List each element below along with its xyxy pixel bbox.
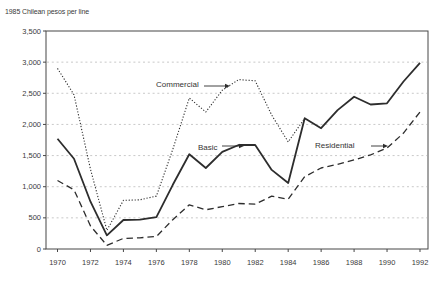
chart-figure: 1985 Chilean pesos per line 05001,0001,5… (0, 0, 445, 283)
x-tick-label: 1976 (148, 258, 165, 267)
y-tick-label: 1,500 (22, 151, 41, 160)
chart-generated-layer: 05001,0001,5002,0002,5003,0003,500197019… (22, 27, 428, 268)
commercial-series-label: Commercial (156, 80, 199, 89)
basic-series-label: Basic (198, 143, 218, 152)
x-tick-label: 1986 (313, 258, 330, 267)
y-tick-label: 3,500 (22, 27, 41, 36)
commercial-line (58, 68, 305, 230)
residential-line (58, 112, 421, 245)
y-tick-label: 2,000 (22, 120, 41, 129)
x-tick-label: 1974 (115, 258, 132, 267)
y-tick-label: 500 (28, 213, 41, 222)
x-tick-label: 1980 (214, 258, 231, 267)
x-tick-label: 1982 (247, 258, 264, 267)
x-tick-label: 1988 (346, 258, 363, 267)
y-tick-label: 2,500 (22, 89, 41, 98)
basic-line (58, 63, 421, 236)
x-tick-label: 1972 (82, 258, 99, 267)
y-tick-label: 0 (37, 245, 41, 254)
x-tick-label: 1970 (49, 258, 66, 267)
commercial-arrowhead (225, 84, 230, 88)
x-tick-label: 1992 (412, 258, 429, 267)
residential-series-label: Residential (315, 141, 355, 150)
x-tick-label: 1984 (280, 258, 297, 267)
y-tick-label: 1,000 (22, 182, 41, 191)
x-tick-label: 1990 (379, 258, 396, 267)
x-tick-label: 1978 (181, 258, 198, 267)
y-tick-label: 3,000 (22, 58, 41, 67)
line-chart: 05001,0001,5002,0002,5003,0003,500197019… (0, 0, 445, 283)
